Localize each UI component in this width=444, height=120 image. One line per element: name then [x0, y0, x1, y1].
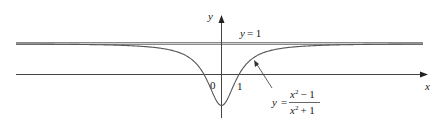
- svg-text:x2+ 1: x2+ 1: [289, 104, 315, 116]
- svg-text:y: y: [271, 96, 277, 108]
- formula-label: y = x2− 1 x2+ 1: [271, 88, 320, 116]
- graph: y x 0 1 y= 1 y = x2− 1 x2+ 1: [0, 0, 444, 120]
- x-axis-label: x: [424, 80, 430, 92]
- asymptote-label: y= 1: [239, 27, 261, 39]
- y-axis-label: y: [207, 10, 213, 22]
- origin-label: 0: [210, 79, 216, 91]
- svg-text:x2− 1: x2− 1: [289, 88, 315, 100]
- svg-text:=: =: [281, 96, 287, 108]
- tick-label-one: 1: [237, 80, 243, 92]
- y-axis-arrow-icon: [219, 15, 225, 23]
- x-axis-arrow-icon: [420, 72, 428, 78]
